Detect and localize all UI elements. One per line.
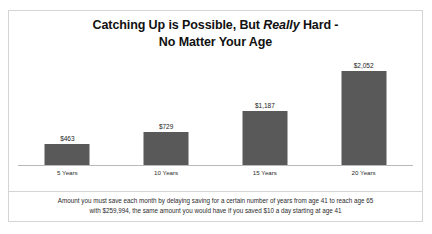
footnote-line-2: with $259,994, the same amount you would… — [23, 206, 408, 216]
plot-area: $463 $729 $1,187 $2,052 — [18, 57, 413, 165]
chart-title-text-before: Catching Up is Possible, But — [93, 18, 264, 32]
bar-value-label: $463 — [18, 135, 117, 142]
category-label-5-years: 5 Years — [18, 169, 117, 176]
bar-value-label: $729 — [117, 123, 216, 130]
bar-value-label: $1,187 — [216, 102, 315, 109]
bar-rect[interactable] — [144, 132, 189, 165]
bar-rect[interactable] — [45, 144, 90, 165]
bar-rect[interactable] — [242, 111, 287, 165]
category-label-10-years: 10 Years — [117, 169, 216, 176]
bar-rect[interactable] — [341, 71, 386, 165]
x-axis-line — [18, 165, 413, 166]
bar-slot: $463 — [18, 57, 117, 165]
chart-footnote: Amount you must save each month by delay… — [23, 196, 408, 215]
chart-card: Catching Up is Possible, But Really Hard… — [8, 10, 423, 222]
category-axis: 5 Years 10 Years 15 Years 20 Years — [18, 169, 413, 183]
chart-title-line1: Catching Up is Possible, But Really Hard… — [93, 18, 339, 32]
bar-slot: $2,052 — [314, 57, 413, 165]
category-label-20-years: 20 Years — [314, 169, 413, 176]
chart-title: Catching Up is Possible, But Really Hard… — [9, 17, 422, 51]
category-label-15-years: 15 Years — [216, 169, 315, 176]
bar-slot: $729 — [117, 57, 216, 165]
bar-value-label: $2,052 — [314, 62, 413, 69]
footnote-line-1: Amount you must save each month by delay… — [23, 196, 408, 206]
chart-title-emphasis: Really — [263, 18, 299, 32]
chart-title-text-after: Hard - — [300, 18, 339, 32]
chart-title-line2: No Matter Your Age — [9, 34, 422, 51]
footnote-divider — [9, 191, 422, 192]
bar-slot: $1,187 — [216, 57, 315, 165]
